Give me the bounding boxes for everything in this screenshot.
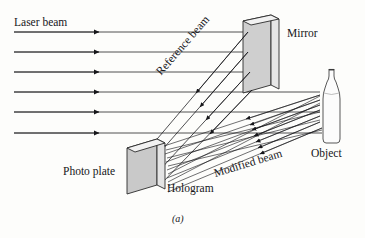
label-mirror: Mirror	[287, 28, 318, 40]
label-object: Object	[311, 148, 342, 160]
holography-figure: Laser beam Reference beam Mirror Object …	[0, 0, 365, 238]
modified-beam-rays	[164, 95, 322, 192]
mirror-object	[243, 15, 279, 93]
label-hologram: Hologram	[167, 183, 214, 195]
object-bottle	[323, 70, 340, 144]
photo-plate-object	[127, 139, 165, 194]
label-laser-beam: Laser beam	[14, 17, 67, 29]
figure-caption: (a)	[172, 214, 184, 224]
label-photo-plate: Photo plate	[63, 166, 115, 178]
